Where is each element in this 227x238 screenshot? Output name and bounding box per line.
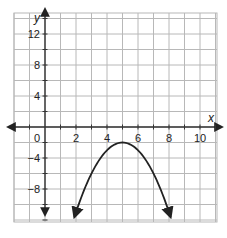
x-tick-label: 8: [166, 132, 172, 144]
y-tick-label: 8: [34, 59, 40, 71]
x-tick-label: 0: [34, 132, 40, 144]
y-axis-label: y: [33, 11, 41, 25]
y-tick-label: 12: [28, 28, 40, 40]
y-tick-label: 4: [34, 90, 40, 102]
x-tick-label: 6: [135, 132, 141, 144]
y-tick-label: −8: [27, 183, 40, 195]
x-axis-label: x: [207, 111, 215, 125]
parabola-graph: 02468101284−4−8 x y: [0, 0, 227, 238]
x-tick-label: 4: [104, 132, 110, 144]
x-tick-label: 2: [73, 132, 79, 144]
y-tick-label: −4: [27, 152, 40, 164]
x-tick-label: 10: [194, 132, 206, 144]
